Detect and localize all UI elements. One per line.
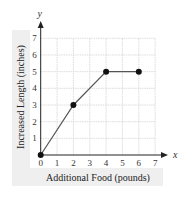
data-point-marker bbox=[70, 102, 76, 108]
x-tick-label: 3 bbox=[88, 158, 93, 168]
x-tick-label: 2 bbox=[71, 158, 76, 168]
y-tick-label: 2 bbox=[32, 117, 37, 127]
y-axis-var: y bbox=[37, 8, 43, 19]
x-axis-var: x bbox=[172, 149, 178, 160]
x-tick-label: 0 bbox=[38, 158, 43, 168]
x-axis-title: Additional Food (pounds) bbox=[46, 172, 150, 184]
y-axis-title: Increased Length (inches) bbox=[15, 45, 27, 149]
y-tick-label: 1 bbox=[32, 133, 37, 143]
y-tick-label: 4 bbox=[32, 83, 37, 93]
y-tick-label: 6 bbox=[32, 50, 37, 60]
y-tick-label: 7 bbox=[32, 33, 37, 43]
data-point-marker bbox=[38, 152, 44, 158]
y-axis-arrow-icon bbox=[38, 21, 44, 28]
y-tick-label: 3 bbox=[32, 100, 37, 110]
grid bbox=[41, 38, 155, 155]
y-tick-label: 5 bbox=[32, 67, 37, 77]
x-tick-labels: 01234567 bbox=[38, 158, 157, 168]
x-tick-label: 1 bbox=[55, 158, 60, 168]
x-tick-label: 5 bbox=[120, 158, 125, 168]
x-tick-label: 7 bbox=[153, 158, 158, 168]
axes: x y bbox=[37, 8, 179, 160]
x-axis-arrow-icon bbox=[161, 152, 168, 158]
x-tick-label: 4 bbox=[104, 158, 109, 168]
x-tick-label: 6 bbox=[137, 158, 142, 168]
chart: x y 01234567 1234567 Additional Food (po… bbox=[0, 0, 187, 197]
data-point-marker bbox=[136, 69, 142, 75]
data-point-marker bbox=[103, 69, 109, 75]
y-tick-labels: 1234567 bbox=[32, 33, 37, 143]
